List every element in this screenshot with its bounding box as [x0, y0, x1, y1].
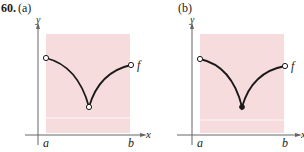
tick-b: b [128, 136, 134, 151]
function-label: f [137, 58, 140, 73]
y-axis-label: y [190, 14, 194, 25]
tick-a: a [43, 136, 49, 151]
tick-a: a [197, 136, 203, 151]
open-endpoint-right [128, 62, 133, 67]
y-axis-label: y [36, 14, 40, 25]
shaded-region [200, 34, 284, 133]
function-label: f [291, 59, 294, 74]
open-endpoint-right [282, 63, 287, 68]
open-endpoint-left [43, 55, 48, 60]
graph-b [152, 0, 304, 152]
open-minimum-point [86, 104, 91, 109]
graph-a [0, 0, 152, 152]
panel-b: (b) y x a b f [152, 0, 304, 152]
closed-minimum-point [240, 105, 245, 110]
x-axis-label: x [301, 128, 304, 140]
open-endpoint-left [197, 56, 202, 61]
panel-a: 60. (a) y x a b f [0, 0, 152, 152]
x-axis-label: x [146, 128, 151, 140]
tick-b: b [282, 136, 288, 151]
